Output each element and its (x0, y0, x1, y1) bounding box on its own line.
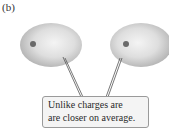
left-electron-cloud (20, 23, 82, 67)
callout-box: Unlike charges are are closer on average… (42, 96, 149, 128)
leader-lines (63, 57, 122, 97)
right-nucleus-dot (123, 41, 129, 47)
callout-line-2: are closer on average. (48, 112, 144, 125)
callout-line-1: Unlike charges are (48, 99, 144, 112)
left-nucleus-dot (30, 41, 36, 47)
